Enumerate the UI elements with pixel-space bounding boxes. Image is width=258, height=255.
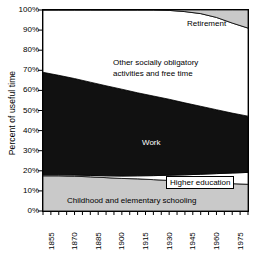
y-tick-label: 70%: [1, 66, 39, 74]
annotation-work: Work: [142, 138, 161, 149]
x-tick-label: 1855: [47, 232, 56, 250]
y-tick-label: 60%: [1, 86, 39, 94]
annotation-other-line2: activities and free time: [113, 69, 193, 80]
annotation-other-line1: Other socially obligatory: [113, 58, 198, 69]
plot-area: Retirement Other socially obligatory act…: [42, 9, 249, 212]
x-tick-label: 1960: [212, 232, 221, 250]
y-tick-label: 40%: [1, 127, 39, 135]
x-tick-label: 1915: [141, 232, 150, 250]
x-tick-label: 1885: [94, 232, 103, 250]
annotation-childhood: Childhood and elementary schooling: [67, 196, 196, 207]
x-tick-label: 1900: [117, 232, 126, 250]
y-tick-label: 100%: [1, 6, 39, 14]
annotation-higher-education: Higher education: [166, 176, 234, 189]
x-tick-label: 1930: [165, 232, 174, 250]
y-axis-ticks: [37, 0, 45, 255]
x-tick-label: 1870: [70, 232, 79, 250]
x-tick-label: 1945: [188, 232, 197, 250]
y-tick-label: 90%: [1, 26, 39, 34]
y-tick-label: 50%: [1, 107, 39, 115]
y-tick-label: 80%: [1, 46, 39, 54]
x-tick-label: 1975: [236, 232, 245, 250]
y-tick-label: 10%: [1, 187, 39, 195]
area-chart: Percent of useful time 100%90%80%70%60%5…: [0, 0, 258, 255]
annotation-retirement: Retirement: [187, 19, 226, 30]
y-tick-label: 20%: [1, 167, 39, 175]
y-tick-label: 30%: [1, 147, 39, 155]
